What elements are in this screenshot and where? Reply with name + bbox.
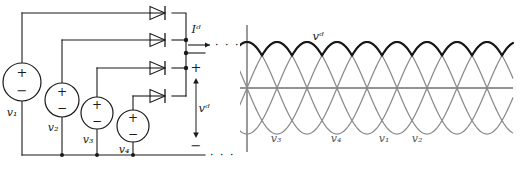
rectifier-circuit-diagram: + − v₁ + − v₂ + − v₃ + − v₄ <box>0 0 240 170</box>
collector-bus <box>172 13 186 96</box>
diode-4 <box>150 89 165 103</box>
plot-label-v2: v₂ <box>412 132 423 145</box>
output-waveform-plot: vᵈ v₃ v₄ v₁ v₂ <box>240 0 529 170</box>
v1-label: v₁ <box>7 106 18 119</box>
diode-1 <box>150 6 165 20</box>
v1-minus: − <box>17 83 28 98</box>
continuation-dots-bottom: · · · <box>210 149 235 162</box>
envelope-group <box>240 42 513 55</box>
v3-plus: + <box>92 98 102 112</box>
figure-root: + − v₁ + − v₂ + − v₃ + − v₄ <box>0 0 529 170</box>
plot-label-v1: v₁ <box>379 132 390 145</box>
v4-plus: + <box>128 111 138 125</box>
v2-label: v₂ <box>48 121 59 134</box>
output-minus-sign: − <box>191 138 202 153</box>
diode-2 <box>150 33 165 47</box>
v2-minus: − <box>57 101 67 115</box>
v4-minus: − <box>128 127 138 141</box>
v1-plus: + <box>17 65 28 80</box>
continuation-dots-top: · · · <box>215 39 240 52</box>
diode-3 <box>150 61 165 75</box>
v3-minus: − <box>92 114 102 128</box>
output-voltage-label: vᵈ <box>198 101 209 115</box>
v4-label: v₄ <box>119 143 130 156</box>
v2-plus: + <box>57 85 67 99</box>
output-current-arrow <box>188 42 210 47</box>
output-plus-sign: + <box>191 60 202 75</box>
envelope-curve-vd <box>240 42 513 55</box>
v3-label: v₃ <box>83 133 94 146</box>
plot-label-v4: v₄ <box>331 132 342 145</box>
diode-group <box>150 6 165 103</box>
plot-label-vd: vᵈ <box>312 29 323 43</box>
plot-label-v3: v₃ <box>271 132 282 145</box>
output-current-label: Iᵈ <box>190 22 201 36</box>
